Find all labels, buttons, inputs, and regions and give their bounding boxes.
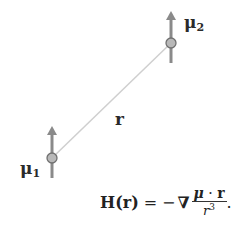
formula-denominator: r3 <box>203 202 215 219</box>
formula-numerator-r: r <box>217 185 224 201</box>
dipole-2-label: μ2 <box>184 14 204 33</box>
formula-fraction: μ · r r3 <box>192 186 227 219</box>
formula-nabla-icon: ∇ <box>178 193 190 212</box>
formula-numerator-dot: · <box>204 185 217 201</box>
dipole-field-formula: H (r) = − ∇ μ · r r3 . <box>100 186 232 219</box>
dipole-2-label-sub: 2 <box>196 21 204 34</box>
dipole-2-label-main: μ <box>184 12 196 32</box>
formula-trailing-period: . <box>227 193 232 212</box>
formula-lhs-arg: (r) <box>115 193 139 212</box>
formula-numerator: μ · r <box>192 186 227 202</box>
formula-minus: − <box>162 193 175 212</box>
formula-equals: = <box>144 193 157 212</box>
dipole-interaction-diagram: μ2 μ1 r H (r) = − ∇ μ · r r3 . <box>0 0 252 238</box>
formula-denominator-exp: 3 <box>209 202 215 212</box>
dipole-1-label-sub: 1 <box>32 167 40 180</box>
dipole-1-label-main: μ <box>20 158 32 178</box>
separation-vector-line <box>52 43 171 158</box>
dipole-1-particle <box>47 153 57 163</box>
separation-label: r <box>115 111 124 128</box>
formula-numerator-mu: μ <box>194 185 204 201</box>
dipole-2-arrow-icon <box>166 11 176 63</box>
dipole-2-particle <box>166 38 176 48</box>
formula-lhs-symbol: H <box>100 193 115 212</box>
dipole-1-arrow-icon <box>47 126 57 178</box>
dipole-1-label: μ1 <box>20 160 40 179</box>
